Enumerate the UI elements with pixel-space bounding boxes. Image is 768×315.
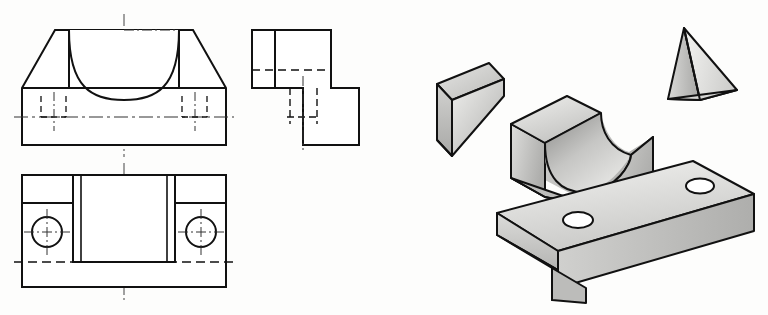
top-view-center-block: [73, 175, 175, 262]
top-view: [14, 163, 234, 300]
front-view: [14, 14, 234, 157]
technical-drawing-canvas: [0, 0, 768, 315]
side-view-outline: [252, 30, 359, 145]
left-wedge: [437, 63, 504, 156]
right-wedge: [668, 28, 737, 100]
base-plate-hole-near: [563, 212, 593, 228]
drawing-sheet: [0, 0, 768, 315]
base-plate-hole-far: [686, 179, 714, 194]
side-view: [252, 30, 359, 150]
